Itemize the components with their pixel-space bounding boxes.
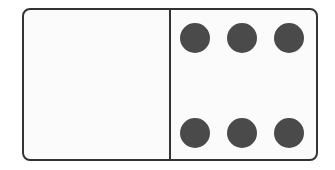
pip-icon bbox=[274, 118, 304, 148]
domino-divider bbox=[169, 10, 171, 159]
pip-icon bbox=[227, 23, 257, 53]
pip-icon bbox=[180, 118, 210, 148]
pip-icon bbox=[180, 23, 210, 53]
pip-icon bbox=[227, 118, 257, 148]
domino-tile bbox=[22, 8, 318, 161]
pip-icon bbox=[274, 23, 304, 53]
